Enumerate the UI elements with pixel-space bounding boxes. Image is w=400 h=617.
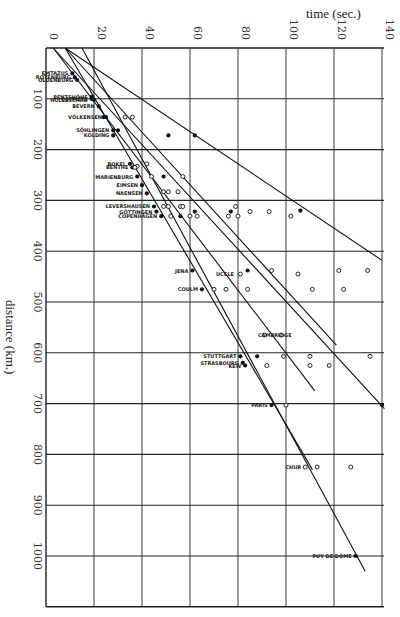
station-label: PARIS: [251, 402, 268, 408]
station-label: CHUR: [285, 464, 301, 470]
filled-point: [246, 268, 250, 272]
station-label: VÖLKENSEN: [68, 114, 102, 120]
travel-time-chart: 0204060801001201401002003004005006007008…: [0, 0, 400, 617]
filled-point: [145, 191, 149, 195]
open-point: [226, 214, 230, 218]
open-point: [166, 190, 170, 194]
station-label: NAENSEN: [116, 190, 143, 196]
open-point: [368, 354, 372, 358]
open-point: [150, 175, 154, 179]
filled-point: [111, 133, 115, 137]
station-label: CAMBRIDGE: [258, 332, 292, 338]
station-label: JENA: [174, 268, 188, 274]
open-point: [327, 364, 331, 368]
station-labels: EMTAZUSROTENBURGOLDENBURGBENTSHÖHEOSTMET…: [36, 70, 352, 559]
y-tick-label: 500: [31, 292, 44, 313]
fit-line: [65, 48, 312, 470]
open-point: [282, 354, 286, 358]
station-label: PUY DE DÔME: [312, 553, 352, 559]
filled-point: [270, 403, 274, 407]
open-point: [246, 287, 250, 291]
open-point: [337, 269, 341, 273]
filled-point: [128, 162, 132, 166]
filled-point: [178, 214, 182, 218]
filled-point: [159, 214, 163, 218]
open-point: [366, 269, 370, 273]
open-point: [188, 214, 192, 218]
x-tick-label: 120: [335, 19, 348, 40]
open-point: [123, 115, 127, 119]
station-label: EIMSEN: [117, 182, 138, 188]
open-point: [303, 465, 307, 469]
open-point: [169, 214, 173, 218]
y-tick-label: 800: [31, 444, 44, 465]
station-label: STUTTGART: [203, 353, 237, 359]
filled-point: [193, 209, 197, 213]
open-point: [315, 465, 319, 469]
filled-point: [97, 104, 101, 108]
station-label: COPENHAGEN: [118, 213, 157, 219]
filled-point: [92, 98, 96, 102]
filled-point: [70, 71, 74, 75]
x-tick-label: 40: [143, 26, 156, 40]
filled-point: [162, 174, 166, 178]
y-tick-label: 700: [31, 393, 44, 414]
fit-line: [82, 48, 365, 571]
y-tick-label: 1000: [31, 542, 44, 570]
filled-point: [200, 287, 204, 291]
open-point: [342, 287, 346, 291]
open-point: [296, 272, 300, 276]
open-point: [181, 204, 185, 208]
open-point: [162, 190, 166, 194]
y-tick-label: 400: [31, 241, 44, 262]
open-point: [289, 214, 293, 218]
open-point: [224, 287, 228, 291]
y-tick-label: 100: [31, 88, 44, 109]
y-tick-label: 900: [31, 495, 44, 516]
filled-point: [193, 133, 197, 137]
x-tick-label: 100: [287, 19, 300, 40]
open-point: [270, 269, 274, 273]
station-label: BENTHE: [106, 164, 129, 170]
open-point: [308, 364, 312, 368]
open-point: [248, 210, 252, 214]
station-label: BEVERN: [72, 103, 95, 109]
open-point: [212, 287, 216, 291]
filled-point: [354, 554, 358, 558]
filled-point: [75, 78, 79, 82]
open-point: [308, 354, 312, 358]
open-point: [162, 204, 166, 208]
station-label: COULM: [178, 286, 198, 292]
open-point: [181, 175, 185, 179]
station-label: HOLLESCHAU: [50, 97, 87, 103]
open-point: [195, 214, 199, 218]
station-label: UCCLE: [216, 271, 235, 277]
filled-point: [238, 354, 242, 358]
open-point: [133, 165, 137, 169]
filled-point: [111, 128, 115, 132]
y-tick-label: 300: [31, 190, 44, 211]
filled-point: [166, 133, 170, 137]
open-point: [130, 115, 134, 119]
x-tick-label: 60: [191, 26, 204, 40]
open-point: [238, 272, 242, 276]
filled-point: [229, 209, 233, 213]
x-tick-label: 140: [383, 19, 396, 40]
open-point: [234, 204, 238, 208]
fit-line: [65, 48, 382, 260]
open-point: [349, 465, 353, 469]
x-tick-label: 0: [47, 33, 60, 40]
filled-point: [104, 115, 108, 119]
station-label: KEW: [228, 363, 241, 369]
x-tick-label: 80: [239, 26, 252, 40]
filled-point: [298, 208, 302, 212]
open-point: [267, 210, 271, 214]
filled-point: [116, 128, 120, 132]
filled-point: [190, 268, 194, 272]
filled-point: [135, 174, 139, 178]
station-label: MARIENBURG: [95, 174, 133, 180]
filled-point: [140, 183, 144, 187]
filled-point: [243, 363, 247, 367]
y-tick-label: 600: [31, 342, 44, 363]
filled-point: [380, 403, 384, 407]
